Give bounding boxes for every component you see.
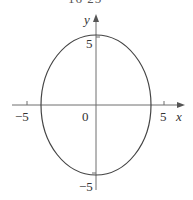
y-tick-label-5: 5 (86, 36, 93, 51)
x-axis-label: x (175, 109, 182, 124)
x-tick-label-5: 5 (160, 109, 167, 124)
y-axis-arrow-icon (93, 14, 99, 22)
x-tick-label-neg5: −5 (15, 109, 29, 124)
y-axis-label: y (82, 12, 90, 27)
origin-label: 0 (82, 109, 89, 124)
y-tick-label-neg5: −5 (79, 179, 93, 194)
x-axis-arrow-icon (177, 102, 185, 108)
ellipse-plot: −5 5 0 x y 5 −5 (0, 0, 193, 200)
